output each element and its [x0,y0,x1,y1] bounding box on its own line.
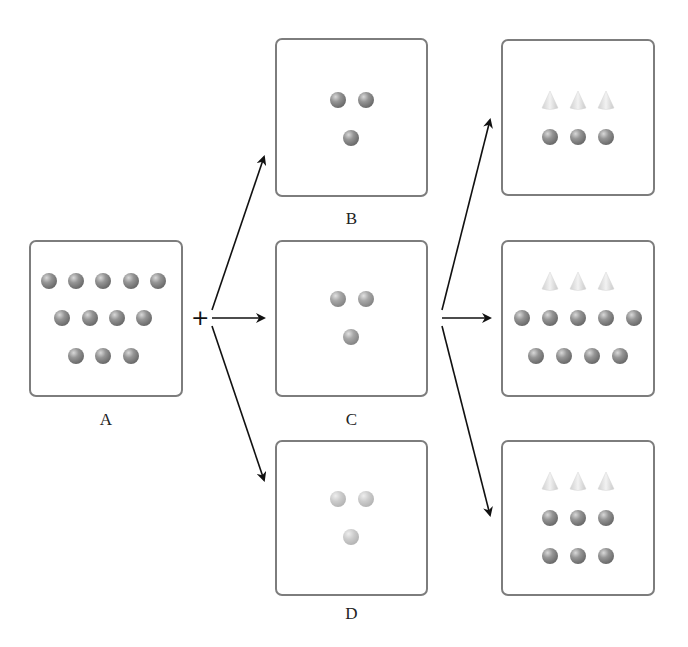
sphere-icon [136,310,152,326]
sphere-icon [41,273,57,289]
sphere-icon [528,348,544,364]
sphere-icon [358,291,374,307]
cone-icon [570,472,586,491]
arrow-icon [212,157,264,310]
sphere-icon [514,310,530,326]
sphere-icon [109,310,125,326]
reaction-diagram: ABCD + [0,0,688,647]
sphere-icon [343,130,359,146]
sphere-icon [626,310,642,326]
sphere-icon [150,273,166,289]
sphere-icon [95,348,111,364]
cone-icon [570,91,586,110]
sphere-icon [598,310,614,326]
sphere-icon [570,510,586,526]
cone-icon [542,91,558,110]
sphere-icon [598,129,614,145]
sphere-icon [343,329,359,345]
sphere-icon [542,129,558,145]
sphere-icon [542,310,558,326]
sphere-icon [598,548,614,564]
sphere-icon [95,273,111,289]
sphere-icon [54,310,70,326]
sphere-icon [358,491,374,507]
sphere-icon [68,273,84,289]
sphere-icon [330,92,346,108]
cone-icon [570,272,586,291]
cone-icon [542,472,558,491]
sphere-icon [570,310,586,326]
cone-icon [598,472,614,491]
arrow-icon [212,326,264,480]
sphere-icon [343,529,359,545]
sphere-icon [82,310,98,326]
arrow-icon [442,326,490,515]
cone-icon [598,91,614,110]
sphere-icon [330,291,346,307]
arrow-icon [442,120,490,310]
diagram-graphics [0,0,688,647]
sphere-icon [330,491,346,507]
sphere-icon [584,348,600,364]
sphere-icon [358,92,374,108]
sphere-icon [68,348,84,364]
sphere-icon [556,348,572,364]
cone-icon [598,272,614,291]
sphere-icon [612,348,628,364]
sphere-icon [570,129,586,145]
sphere-icon [542,548,558,564]
sphere-icon [542,510,558,526]
sphere-icon [123,348,139,364]
sphere-icon [123,273,139,289]
sphere-icon [598,510,614,526]
sphere-icon [570,548,586,564]
cone-icon [542,272,558,291]
